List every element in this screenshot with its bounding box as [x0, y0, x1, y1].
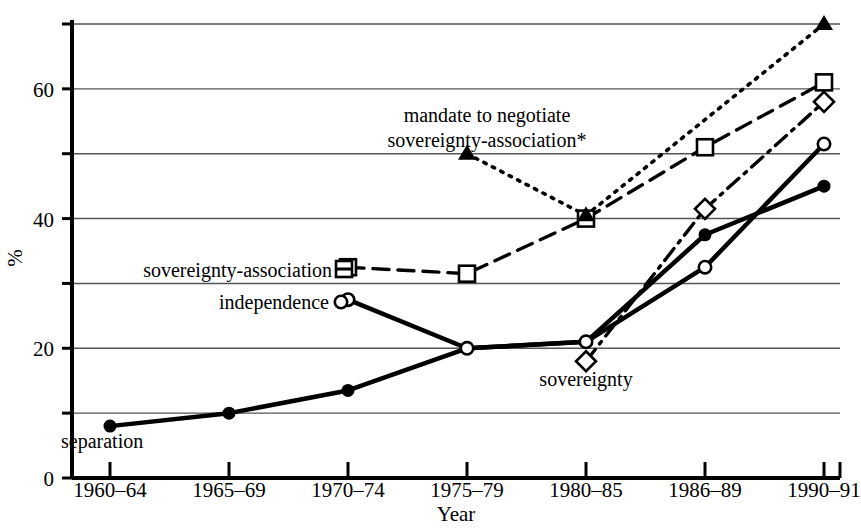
x-tick-label-0: 1960–64	[73, 478, 147, 502]
marker-filled-circle	[342, 384, 355, 397]
x-tick-label-1: 1965–69	[192, 478, 266, 502]
y-axis-tick-labels: 0204060	[33, 78, 54, 491]
x-tick-label-4: 1980–85	[549, 478, 623, 502]
series-point-sovereignty-association-1	[459, 266, 475, 282]
x-axis-tick-labels: 1960–641965–691970–741975–791980–851986–…	[73, 478, 861, 502]
series-label-independence: independence	[219, 291, 329, 314]
series-point-independence-3	[699, 261, 711, 273]
series-lines	[110, 24, 824, 426]
series-point-separation-6	[818, 180, 831, 193]
series-markers	[104, 15, 835, 433]
marker-open-square	[697, 139, 713, 155]
marker-filled-circle	[818, 180, 831, 193]
series-point-mandate-to-negotiate-sovereignty-association-2	[815, 15, 833, 30]
marker-open-square	[816, 74, 832, 90]
series-point-sovereignty-association-4	[816, 74, 832, 90]
y-tick-label-60: 60	[33, 78, 54, 102]
series-label-sovereignty-association: sovereignty-association	[143, 259, 332, 282]
chart-figure: 0204060 1960–641965–691970–741975–791980…	[0, 0, 861, 531]
chart-canvas: 0204060 1960–641965–691970–741975–791980…	[0, 0, 861, 531]
series-point-separation-5	[699, 228, 712, 241]
annotation-mandate-line1: mandate to negotiate	[404, 104, 571, 127]
marker-open-circle	[335, 296, 347, 308]
x-tick-label-5: 1986–89	[668, 478, 742, 502]
marker-open-circle	[699, 261, 711, 273]
y-tick-label-20: 20	[33, 337, 54, 361]
legend-marker-independence	[335, 296, 347, 308]
x-axis-title: Year	[437, 502, 476, 526]
marker-filled-circle	[699, 228, 712, 241]
y-tick-label-40: 40	[33, 208, 54, 232]
series-point-separation-1	[223, 407, 236, 420]
y-tick-label-0: 0	[44, 467, 55, 491]
series-point-separation-2	[342, 384, 355, 397]
x-tick-label-2: 1970–74	[311, 478, 385, 502]
x-axis-ticks	[110, 462, 824, 478]
series-point-independence-2	[580, 336, 592, 348]
series-point-independence-1	[461, 342, 473, 354]
series-label-sovereignty: sovereignty	[539, 368, 632, 391]
x-tick-label-6: 1990–91	[787, 478, 861, 502]
series-point-independence-4	[818, 138, 830, 150]
marker-open-circle	[818, 138, 830, 150]
series-line-separation	[110, 186, 824, 426]
marker-open-circle	[580, 336, 592, 348]
marker-open-circle	[461, 342, 473, 354]
marker-filled-circle	[223, 407, 236, 420]
series-line-independence	[348, 144, 824, 348]
marker-open-square	[459, 266, 475, 282]
annotation-mandate-line2: sovereignty-association*	[388, 129, 587, 152]
marker-filled-triangle	[815, 15, 833, 30]
x-tick-label-3: 1975–79	[430, 478, 504, 502]
series-label-separation: separation	[61, 430, 143, 453]
y-axis-title: %	[3, 249, 27, 267]
series-point-sovereignty-association-3	[697, 139, 713, 155]
